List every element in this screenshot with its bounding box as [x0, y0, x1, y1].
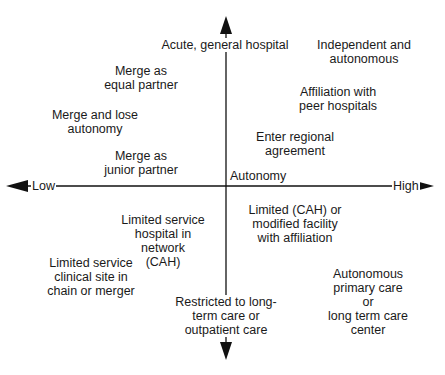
- arrow-down-icon: [220, 342, 232, 360]
- axis-autonomy-label: Autonomy: [230, 169, 286, 183]
- option-merge-lose-autonomy: Merge and lose autonomy: [50, 108, 140, 136]
- option-regional-agreement: Enter regional agreement: [250, 130, 340, 158]
- axis-low-label: Low: [31, 179, 56, 193]
- option-merge-equal-partner: Merge as equal partner: [100, 64, 182, 92]
- axis-top-label: Acute, general hospital: [150, 38, 300, 52]
- arrow-up-icon: [220, 16, 232, 34]
- option-limited-service-clinical-site: Limited service clinical site in chain o…: [45, 256, 137, 298]
- option-limited-cah-affiliation: Limited (CAH) or modified facility with …: [240, 203, 350, 245]
- option-autonomous-primary-care: Autonomous primary care or long term car…: [326, 267, 410, 337]
- option-independent-autonomous: Independent and autonomous: [314, 38, 414, 66]
- option-affiliation-peer-hospitals: Affiliation with peer hospitals: [296, 85, 380, 113]
- axis-bottom-label: Restricted to long- term care or outpati…: [170, 295, 282, 337]
- arrow-left-icon: [6, 180, 28, 192]
- quadrant-diagram: Low High Autonomy Acute, general hospita…: [0, 0, 445, 375]
- axis-high-label: High: [392, 179, 420, 193]
- option-merge-junior-partner: Merge as junior partner: [100, 149, 182, 177]
